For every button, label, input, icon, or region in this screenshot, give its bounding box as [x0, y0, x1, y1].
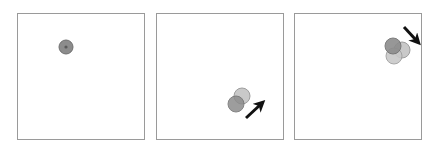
figure-vector-layer — [0, 0, 440, 152]
panel-1-center-dot — [64, 45, 67, 48]
panel-3-motion-arrow-southeast — [404, 27, 416, 40]
panel-2-circle-dark — [228, 96, 244, 112]
panel-1-contents — [59, 40, 73, 54]
panel-2-contents — [228, 88, 260, 118]
panel-2-motion-arrow-northeast — [246, 105, 260, 118]
panel-3-contents — [385, 27, 416, 64]
three-panel-figure — [0, 0, 440, 152]
panel-3-circle-dark-top — [385, 38, 401, 54]
